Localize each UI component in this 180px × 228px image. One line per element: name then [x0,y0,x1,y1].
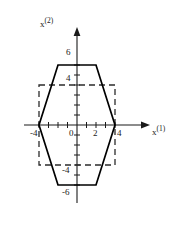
x-tick-label-4: 4 [117,129,122,138]
plot-canvas [0,0,180,228]
x-tick-label-2: 2 [93,129,98,138]
plot-background [0,0,180,228]
y-axis-label-superscript: (2) [45,16,54,25]
origin-label: 0 [69,129,74,138]
x-tick-label--4: -4 [30,129,38,138]
y-tick-label--6: -6 [62,188,70,197]
y-tick-label--4: -4 [62,166,70,175]
x-axis-label: x(1) [152,125,165,137]
x-axis-label-superscript: (1) [157,124,166,133]
y-axis-label: x(2) [40,17,53,29]
y-tick-label-6: 6 [66,48,71,57]
y-tick-label-4: 4 [66,74,71,83]
